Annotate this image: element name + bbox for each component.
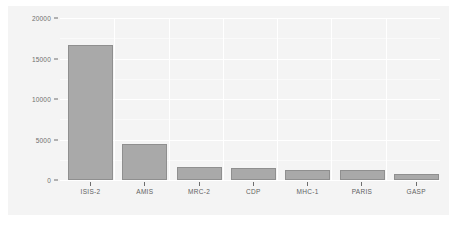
tick-dash-icon	[54, 139, 58, 140]
y-axis-tick-label: 5000	[36, 136, 51, 143]
x-axis-tick: PARIS	[332, 180, 392, 195]
tick-dash-icon	[144, 182, 145, 186]
tick-dash-icon	[54, 180, 58, 181]
x-axis-tick: ISIS-2	[61, 180, 121, 195]
x-axis-tick: CDP	[223, 180, 283, 195]
x-axis: ISIS-2 AMIS MRC-2 CDP MHC-1 PARIS GASP	[60, 180, 440, 206]
x-axis-tick-label: GASP	[386, 188, 446, 195]
tick-dash-icon	[307, 182, 308, 186]
tick-dash-icon	[361, 182, 362, 186]
y-axis: 0 5000 10000 15000 20000	[0, 18, 58, 180]
bar-mrc-2	[177, 167, 222, 180]
y-axis-tick: 15000	[32, 55, 58, 62]
y-axis-tick: 10000	[32, 96, 58, 103]
x-axis-tick: AMIS	[115, 180, 175, 195]
bar-series	[60, 18, 440, 180]
bar-isis-2	[68, 45, 113, 180]
tick-dash-icon	[54, 18, 58, 19]
x-axis-tick-label: PARIS	[332, 188, 392, 195]
tick-dash-icon	[199, 182, 200, 186]
x-axis-tick-label: ISIS-2	[61, 188, 121, 195]
tick-dash-icon	[416, 182, 417, 186]
y-axis-tick-label: 10000	[32, 96, 51, 103]
bar-mhc-1	[285, 170, 330, 180]
y-axis-tick-label: 20000	[32, 15, 51, 22]
x-axis-tick-label: AMIS	[115, 188, 175, 195]
bar-amis	[122, 144, 167, 180]
x-axis-tick-label: MHC-1	[278, 188, 338, 195]
x-axis-tick-label: MRC-2	[169, 188, 229, 195]
x-axis-tick: MHC-1	[278, 180, 338, 195]
tick-dash-icon	[54, 99, 58, 100]
bar-cdp	[231, 168, 276, 180]
y-axis-tick-label: 0	[47, 177, 51, 184]
bar-paris	[340, 170, 385, 180]
x-axis-tick: GASP	[386, 180, 446, 195]
x-axis-tick: MRC-2	[169, 180, 229, 195]
tick-dash-icon	[253, 182, 254, 186]
y-axis-tick-label: 15000	[32, 55, 51, 62]
y-axis-tick: 0	[47, 177, 58, 184]
y-axis-tick: 5000	[36, 136, 58, 143]
tick-dash-icon	[90, 182, 91, 186]
y-axis-tick: 20000	[32, 15, 58, 22]
x-axis-tick-label: CDP	[223, 188, 283, 195]
tick-dash-icon	[54, 58, 58, 59]
bar-chart: 0 5000 10000 15000 20000 ISIS-2 AMI	[0, 0, 457, 225]
